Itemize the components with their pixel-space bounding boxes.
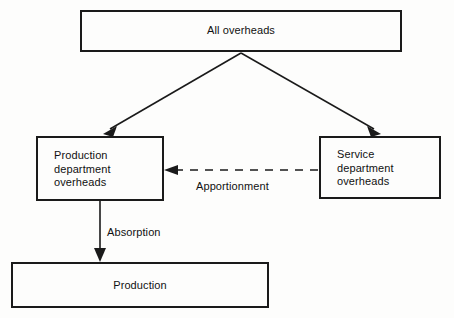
edge-all-to-production-dept (103, 53, 241, 137)
node-service-department-overheads-label: Service department overheads (337, 148, 394, 189)
node-production-label: Production (13, 279, 267, 293)
edge-service-to-production-dept (164, 165, 318, 175)
node-production: Production (11, 262, 269, 308)
node-all-overheads: All overheads (80, 10, 402, 52)
node-production-department-overheads: Production department overheads (36, 136, 164, 201)
edge-production-dept-to-production (94, 201, 106, 262)
diagram-canvas: All overheads Production department over… (0, 0, 454, 318)
edge-all-to-service-dept (241, 53, 381, 137)
node-service-department-overheads: Service department overheads (319, 136, 441, 199)
node-production-department-overheads-label: Production department overheads (54, 149, 111, 190)
edge-label-absorption: Absorption (107, 226, 161, 239)
edge-label-apportionment: Apportionment (196, 180, 269, 193)
node-all-overheads-label: All overheads (82, 24, 400, 38)
